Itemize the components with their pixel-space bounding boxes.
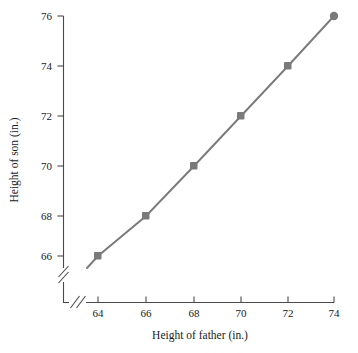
y-axis-title: Height of son (in.): [8, 117, 21, 202]
x-axis-title: Height of father (in.): [152, 329, 248, 342]
data-point-74-76: [330, 12, 338, 20]
data-point-70-72: [237, 112, 245, 120]
y-tick-label-70: 70: [41, 160, 53, 172]
x-tick-marks-group: [98, 297, 334, 303]
y-tick-label-68: 68: [41, 210, 53, 222]
x-tick-label-66: 66: [141, 307, 153, 319]
x-tick-label-72: 72: [283, 307, 294, 319]
x-tick-label-70: 70: [236, 307, 248, 319]
y-tick-marks-group: [58, 16, 64, 256]
y-tick-label-74: 74: [41, 60, 53, 72]
data-point-68-70: [190, 162, 198, 170]
x-tick-label-64: 64: [93, 307, 105, 319]
y-tick-label-66: 66: [41, 250, 53, 262]
chart-canvas: 76 74 72 70 68 66 64 66 68 70 72 74: [0, 0, 358, 353]
x-tick-labels-group: 64 66 68 70 72 74: [93, 307, 341, 319]
y-axis-break-icon: [59, 266, 69, 283]
y-tick-label-72: 72: [41, 110, 52, 122]
x-tick-label-74: 74: [329, 307, 341, 319]
scatter-line-chart: 76 74 72 70 68 66 64 66 68 70 72 74: [0, 0, 358, 353]
series-markers-group: [94, 12, 338, 260]
series-line-height-of-son: [87, 16, 334, 268]
x-axis-break-icon: [71, 296, 86, 308]
data-point-64-66: [94, 252, 102, 260]
x-tick-label-68: 68: [189, 307, 201, 319]
y-tick-label-76: 76: [41, 10, 53, 22]
y-tick-labels-group: 76 74 72 70 68 66: [41, 10, 53, 262]
data-point-72-74: [284, 62, 292, 70]
data-point-66-68: [142, 212, 150, 220]
